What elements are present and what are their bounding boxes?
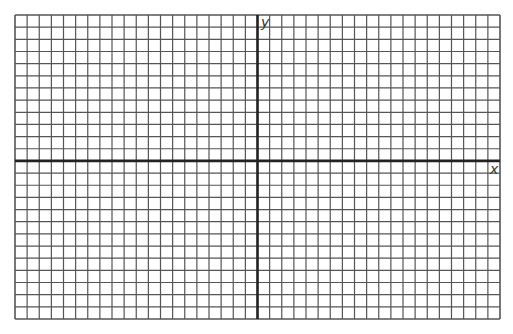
y-axis-label: y xyxy=(261,15,269,29)
x-axis-label: x xyxy=(490,162,498,176)
coordinate-grid xyxy=(0,0,513,334)
